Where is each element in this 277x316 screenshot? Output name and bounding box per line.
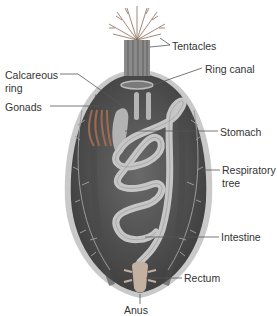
label-respiratory-tree-line2: tree: [222, 177, 240, 189]
label-tentacles: Tentacles: [172, 40, 216, 52]
sea-cucumber-diagram: [0, 0, 277, 316]
label-rectum: Rectum: [184, 272, 220, 284]
label-gonads: Gonads: [5, 101, 42, 113]
label-calcareous-ring-line2: ring: [5, 82, 23, 94]
ring-canal: [121, 81, 153, 89]
label-intestine: Intestine: [221, 231, 261, 243]
tentacles: [109, 6, 165, 40]
leader-tentacles: [160, 38, 170, 45]
label-respiratory-tree-line1: Respiratory: [222, 164, 276, 176]
label-ring-canal: Ring canal: [205, 63, 255, 75]
label-stomach: Stomach: [220, 126, 261, 138]
label-anus: Anus: [124, 304, 148, 316]
rectum: [132, 262, 148, 293]
label-calcareous-ring-line1: Calcareous: [5, 69, 58, 81]
